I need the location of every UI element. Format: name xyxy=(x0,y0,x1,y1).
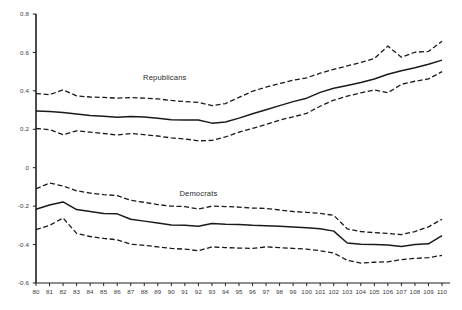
y-axis-tick-label: 0 xyxy=(3,164,29,171)
chart-plot-area xyxy=(0,0,462,310)
x-axis-tick-label: 110 xyxy=(434,288,450,295)
y-axis-tick-label: 0.4 xyxy=(3,87,29,94)
y-axis-tick-label: -0.6 xyxy=(3,279,29,286)
y-axis-tick-label: -0.4 xyxy=(3,241,29,248)
y-axis-tick-label: -0.2 xyxy=(3,202,29,209)
series-line-republicans-lower xyxy=(36,72,442,141)
y-axis-tick-label: 0.6 xyxy=(3,49,29,56)
y-axis-tick-label: 0.2 xyxy=(3,125,29,132)
series-label-republicans: Republicans xyxy=(143,73,186,82)
series-line-republicans-upper xyxy=(36,41,442,105)
series-line-democrats-upper xyxy=(36,183,442,234)
series-line-republicans-mean xyxy=(36,60,442,123)
y-axis-tick-label: 0.8 xyxy=(3,10,29,17)
chart-container: 0.80.60.40.20-0.2-0.4-0.6808182838485868… xyxy=(0,0,462,310)
series-line-democrats-mean xyxy=(36,202,442,247)
series-label-democrats: Democrats xyxy=(179,189,217,198)
